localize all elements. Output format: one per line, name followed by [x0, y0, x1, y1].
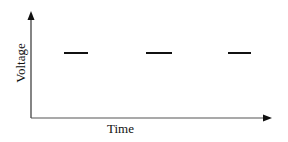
voltage-time-diagram [0, 0, 288, 142]
y-axis-arrow-icon [28, 11, 35, 20]
x-axis-arrow-icon [263, 115, 272, 122]
y-axis-label: Voltage [13, 38, 29, 88]
x-axis-label: Time [107, 121, 134, 137]
